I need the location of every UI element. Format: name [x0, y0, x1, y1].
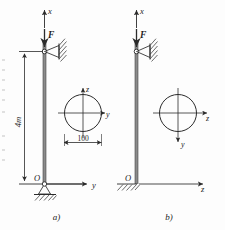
- origin-label-a: O: [34, 173, 40, 183]
- hatching-bottom-b: [118, 185, 140, 191]
- section-axis-y-label-b: y: [180, 140, 185, 149]
- axis-z-label-b: z: [200, 184, 205, 194]
- column-member-b: [135, 41, 138, 184]
- section-axis-z-label-b: z: [205, 114, 210, 123]
- axis-z-arrow-b: z: [139, 184, 205, 194]
- caption-a: a): [0, 212, 113, 222]
- column-member-a: [43, 41, 46, 184]
- axis-x-label-b: x: [139, 6, 144, 16]
- axis-x-label-a: x: [47, 6, 52, 16]
- origin-label-b: O: [125, 173, 131, 183]
- figure-panel-a: 4m y: [0, 0, 113, 230]
- dimension-4m-label-a: 4m: [13, 117, 23, 127]
- figure-canvas: 4m y: [0, 0, 225, 230]
- dimension-4m-a: 4m: [13, 54, 25, 181]
- section-dimension-label-a: 100: [77, 134, 89, 143]
- figure-b-drawing: z O x F z y: [113, 0, 225, 222]
- caption-b: b): [113, 212, 225, 222]
- figure-a-drawing: 4m y: [0, 0, 113, 222]
- section-dimension-a: 100: [65, 134, 102, 147]
- axis-y-arrow-a: y: [47, 180, 96, 190]
- cross-section-a: z y 100: [58, 85, 110, 146]
- force-label-a: F: [47, 30, 55, 40]
- bottom-support-a: [19, 182, 86, 201]
- bottom-fixed-support-b: [117, 184, 140, 191]
- hatching-top-b: [150, 39, 158, 62]
- cross-section-b: z y: [153, 88, 210, 149]
- force-label-b: F: [139, 30, 147, 40]
- axis-y-label-a: y: [91, 180, 96, 190]
- hatching-top-a: [59, 39, 67, 62]
- section-axis-y-label-a: y: [105, 110, 110, 119]
- figure-panel-b: z O x F z y b): [113, 0, 225, 230]
- hatching-bottom-a: [35, 195, 57, 201]
- section-axis-z-label-a: z: [85, 85, 90, 94]
